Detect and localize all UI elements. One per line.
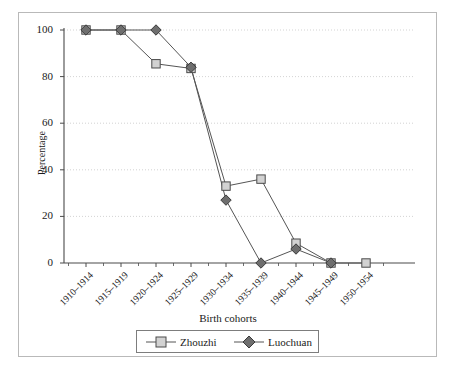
y-tick-label-0: 0 — [23, 257, 53, 268]
series-lines — [86, 30, 366, 263]
y-axis-title: Percentage — [36, 131, 47, 175]
series-line-zhouzhi — [86, 30, 366, 263]
axis-lines — [64, 28, 415, 263]
y-tick-label-100: 100 — [23, 24, 53, 35]
tick-marks — [60, 30, 384, 267]
marker-zhouzhi-2 — [152, 60, 160, 68]
legend-marker-square-icon — [145, 335, 177, 349]
legend-label-zhouzhi: Zhouzhi — [180, 336, 217, 348]
gridlines — [64, 30, 415, 216]
legend-item-zhouzhi[interactable]: Zhouzhi — [145, 331, 217, 352]
marker-zhouzhi-4 — [222, 182, 230, 190]
chart-figure: 020406080100 1910–19141915–19191920–1924… — [0, 0, 454, 376]
marker-luochuan-4 — [221, 195, 231, 205]
y-tick-label-80: 80 — [23, 71, 53, 82]
marker-zhouzhi-8 — [362, 259, 370, 267]
legend-label-luochuan: Luochuan — [268, 336, 312, 348]
marker-zhouzhi-5 — [257, 175, 265, 183]
legend-item-luochuan[interactable]: Luochuan — [233, 331, 312, 352]
chart-legend: Zhouzhi Luochuan — [136, 330, 319, 353]
series-line-luochuan — [86, 30, 331, 263]
legend-marker-diamond-icon — [233, 335, 265, 349]
y-tick-label-60: 60 — [23, 117, 53, 128]
x-axis-title: Birth cohorts — [168, 312, 288, 324]
marker-luochuan-5 — [256, 258, 266, 268]
y-tick-label-20: 20 — [23, 210, 53, 221]
series-markers — [81, 25, 370, 268]
